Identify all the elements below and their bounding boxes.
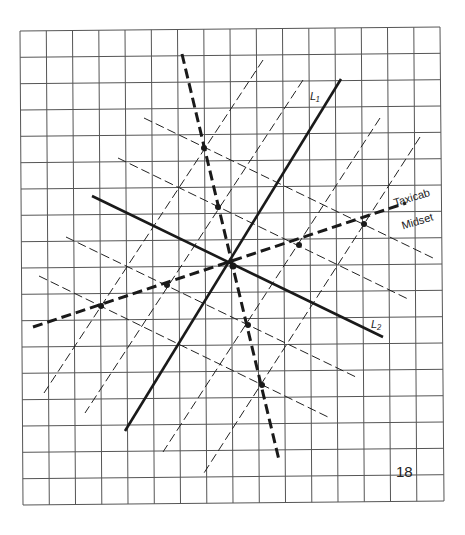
line-l1-label: L₁	[310, 90, 320, 102]
line-l2-label: L₂	[371, 318, 381, 330]
line-l1	[125, 79, 341, 431]
figure-number: 18	[396, 463, 413, 480]
taxicab-midset-figure: L₁ L₂ Taxicab Midset 18	[0, 0, 465, 535]
grid-diagram	[0, 0, 465, 535]
